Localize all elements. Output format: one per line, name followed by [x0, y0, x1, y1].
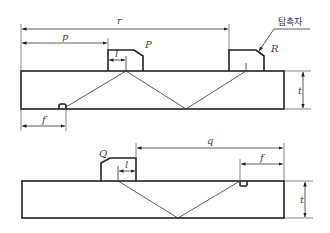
label-probe-R: R	[270, 43, 279, 54]
label-probe-Q: Q	[99, 148, 107, 159]
label-l-top: l	[115, 48, 118, 59]
probe-Q	[101, 158, 136, 181]
bottom-figure: Q l q f t	[22, 135, 313, 218]
label-probe-P: P	[144, 39, 152, 50]
label-r: r	[117, 15, 123, 26]
top-figure: r p P l R 탐촉자 f t	[21, 15, 311, 131]
label-f-bottom: f	[259, 152, 266, 163]
label-p: p	[62, 31, 69, 42]
label-f-top: f	[41, 114, 48, 125]
probe-P	[108, 50, 143, 71]
beam-path-top	[66, 71, 246, 109]
probe-callout-leader	[259, 29, 310, 51]
ultrasonic-probe-diagram: r p P l R 탐촉자 f t	[0, 0, 330, 233]
label-probe-callout: 탐촉자	[278, 16, 303, 27]
label-q: q	[207, 135, 213, 146]
label-t-top: t	[298, 85, 303, 96]
probe-R	[229, 50, 264, 71]
beam-path-bottom	[118, 181, 240, 218]
label-t-bottom: t	[300, 194, 305, 205]
label-l-bottom: l	[125, 159, 128, 170]
